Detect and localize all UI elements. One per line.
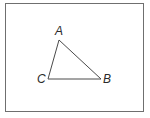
vertex-label-a: A <box>54 24 63 38</box>
vertex-label-b: B <box>103 72 111 86</box>
triangle-diagram: A B C <box>0 0 150 118</box>
triangle-abc <box>48 40 101 79</box>
vertex-label-c: C <box>37 72 46 86</box>
